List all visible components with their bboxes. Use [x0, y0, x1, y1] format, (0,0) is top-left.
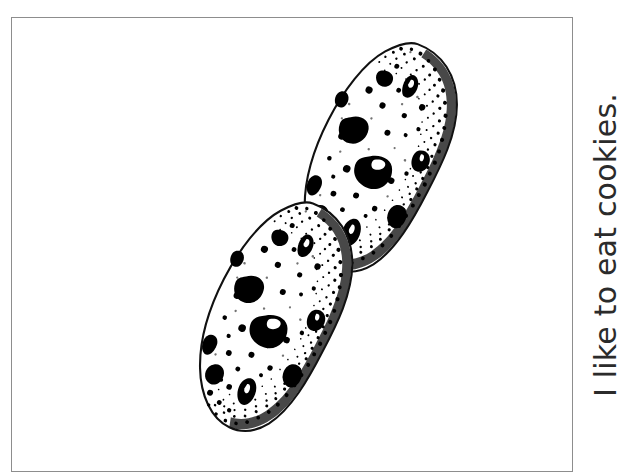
illustration-panel [11, 17, 573, 472]
cookies-illustration [12, 18, 572, 471]
caption-area: I like to eat cookies. [582, 17, 630, 472]
caption-text: I like to eat cookies. [591, 92, 621, 396]
screenshot-root: I like to eat cookies. [0, 0, 630, 476]
